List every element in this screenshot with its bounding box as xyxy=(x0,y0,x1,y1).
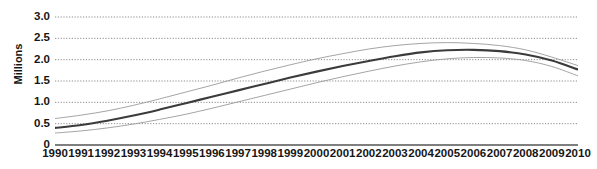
y-axis-tick-labels: 3.02.52.01.51.00.50 xyxy=(0,0,50,169)
y-tick-label: 0.5 xyxy=(4,118,50,130)
y-tick-label: 2.5 xyxy=(4,32,50,44)
x-axis-tick-labels: 1990199119921993199419951996199719981999… xyxy=(55,148,578,168)
x-tick-label: 2010 xyxy=(558,148,597,160)
chart-svg xyxy=(55,0,578,146)
y-tick-label: 1.0 xyxy=(4,96,50,108)
y-tick-label: 2.0 xyxy=(4,54,50,66)
chart-container: Millions 3.02.52.01.51.00.50 19901991199… xyxy=(0,0,597,169)
series-line-lower-bound xyxy=(55,57,578,133)
series-line-estimate xyxy=(55,50,578,128)
y-tick-label: 1.5 xyxy=(4,75,50,87)
plot-area xyxy=(55,0,578,146)
y-tick-label: 3.0 xyxy=(4,11,50,23)
